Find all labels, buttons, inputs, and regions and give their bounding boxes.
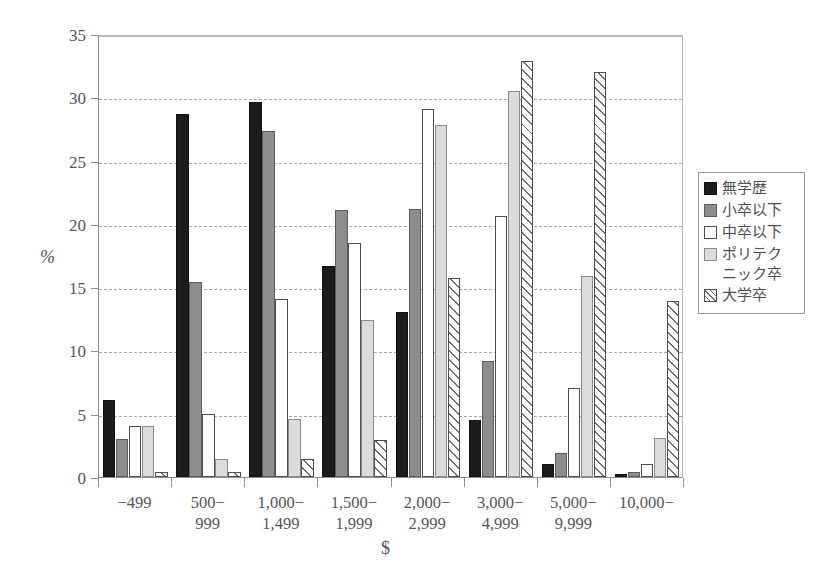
legend-item-label: ポリテク ニック卒 <box>722 244 782 284</box>
bar <box>262 131 274 477</box>
bar <box>667 301 679 477</box>
x-axis-tick-mark <box>610 478 611 487</box>
bar <box>202 414 214 477</box>
x-axis-tick-label: 500− 999 <box>171 492 244 534</box>
bar <box>155 472 167 477</box>
bar <box>409 209 421 477</box>
bar <box>508 91 520 477</box>
x-axis-tick-mark <box>171 478 172 487</box>
x-axis-tick-label: 1,500− 1,999 <box>317 492 390 534</box>
legend-swatch-icon <box>704 248 717 261</box>
bar <box>568 388 580 477</box>
bar <box>482 361 494 477</box>
bar <box>176 114 188 477</box>
y-axis-tick-label: 5 <box>40 406 86 426</box>
bar <box>301 459 313 477</box>
x-axis-tick-mark <box>464 478 465 487</box>
bar <box>422 109 434 477</box>
x-axis-tick-mark <box>683 478 684 487</box>
x-axis-tick-label: 2,000− 2,999 <box>391 492 464 534</box>
bar <box>103 400 115 477</box>
legend-item: 中卒以下 <box>704 222 800 243</box>
gridline <box>99 36 682 37</box>
legend-item-label: 大学卒 <box>722 285 767 305</box>
bar <box>495 216 507 477</box>
bar <box>654 438 666 477</box>
bar <box>361 320 373 477</box>
bar <box>615 474 627 477</box>
bar <box>348 243 360 477</box>
y-axis-tick-label: 30 <box>40 89 86 109</box>
legend-item: ポリテク ニック卒 <box>704 244 800 284</box>
y-axis-tick-label: 20 <box>40 216 86 236</box>
y-axis-tick-label: 35 <box>40 26 86 46</box>
x-axis-tick-label: 10,000− <box>610 492 683 513</box>
legend-swatch-icon <box>704 289 717 302</box>
bar <box>521 61 533 477</box>
bar <box>374 440 386 477</box>
bar <box>555 453 567 477</box>
bar <box>189 282 201 477</box>
bar <box>542 464 554 477</box>
x-axis-title: $ <box>0 538 831 559</box>
bar <box>129 426 141 477</box>
chart-figure: 05101520253035 % −499500− 9991,000− 1,49… <box>0 0 831 585</box>
x-axis-title-text: $ <box>381 538 390 559</box>
y-axis-tick-label: 10 <box>40 342 86 362</box>
bar <box>448 278 460 477</box>
bar <box>249 102 261 477</box>
bar <box>228 472 240 477</box>
bar <box>469 420 481 477</box>
bar <box>581 276 593 477</box>
x-axis-tick-mark <box>537 478 538 487</box>
y-axis-title: % <box>40 247 55 268</box>
legend-item-label: 中卒以下 <box>722 222 782 242</box>
bar <box>322 266 334 477</box>
legend-swatch-icon <box>704 226 717 239</box>
bar <box>435 125 447 477</box>
legend-item: 無学歴 <box>704 178 800 199</box>
x-axis-tick-mark <box>317 478 318 487</box>
x-axis-tick-mark <box>244 478 245 487</box>
x-axis-tick-label: −499 <box>98 492 171 513</box>
bar <box>594 72 606 477</box>
x-axis-tick-label: 1,000− 1,499 <box>244 492 317 534</box>
x-axis-tick-label: 5,000− 9,999 <box>537 492 610 534</box>
x-axis-tick-mark <box>391 478 392 487</box>
legend-swatch-icon <box>704 204 717 217</box>
bar <box>288 419 300 477</box>
bar <box>396 312 408 477</box>
bar <box>275 299 287 477</box>
x-axis-tick-label: 3,000− 4,999 <box>464 492 537 534</box>
y-axis-tick-label: 25 <box>40 153 86 173</box>
legend-item: 大学卒 <box>704 285 800 306</box>
bar <box>142 426 154 477</box>
bar <box>116 439 128 477</box>
legend-swatch-icon <box>704 182 717 195</box>
x-axis-tick-mark <box>98 478 99 487</box>
y-axis-tick-label: 0 <box>40 469 86 489</box>
legend-item-label: 無学歴 <box>722 178 767 198</box>
chart-legend: 無学歴小卒以下中卒以下ポリテク ニック卒大学卒 <box>698 172 805 314</box>
bar <box>215 459 227 477</box>
y-axis-tick-label: 15 <box>40 279 86 299</box>
plot-area <box>98 35 683 478</box>
legend-item-label: 小卒以下 <box>722 200 782 220</box>
bar <box>628 472 640 477</box>
bar <box>335 210 347 477</box>
bar <box>641 464 653 477</box>
legend-item: 小卒以下 <box>704 200 800 221</box>
